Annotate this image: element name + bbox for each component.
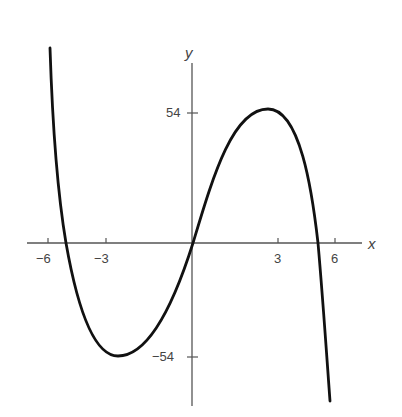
cubic-plot	[0, 0, 402, 417]
x-tick-label-neg6: −6	[36, 252, 51, 265]
x-tick-label-neg3: −3	[94, 252, 109, 265]
cubic-curve	[50, 48, 330, 401]
y-axis-label: y	[185, 45, 193, 60]
x-tick-label-3: 3	[274, 252, 281, 265]
y-tick-label-54: 54	[166, 106, 180, 119]
x-tick-label-6: 6	[331, 252, 338, 265]
x-axis-label: x	[368, 236, 376, 251]
y-tick-label-neg54: −54	[152, 350, 174, 363]
